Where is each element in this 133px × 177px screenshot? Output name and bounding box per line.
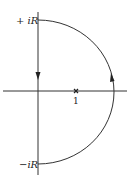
- arrow-down-icon: [36, 72, 41, 80]
- bottom-label: −iR: [19, 159, 39, 170]
- contour-diagram: 1 + iR −iR: [0, 0, 133, 177]
- top-label: + iR: [16, 15, 39, 26]
- point-label: 1: [73, 96, 79, 106]
- semicircle-arc: [38, 20, 114, 164]
